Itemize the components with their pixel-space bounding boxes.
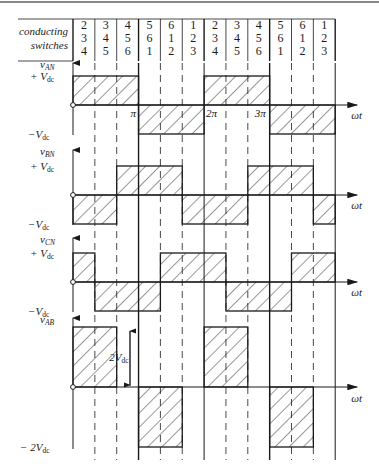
switch-number: 2: [299, 44, 305, 58]
waveform-vAB: ωt2Vdc: [71, 318, 363, 449]
switch-number: 3: [321, 44, 327, 58]
omega-t-label: ωt: [351, 286, 363, 298]
positive-pulse: [73, 253, 95, 282]
positive-pulse: [73, 76, 139, 105]
switch-number: 4: [234, 31, 240, 45]
three-pi-tick-label: 3π: [254, 107, 267, 119]
switch-number: 4: [125, 18, 131, 32]
negative-level-label: −Vdc: [28, 128, 50, 142]
negative-pulse: [226, 282, 292, 311]
switch-number: 4: [212, 44, 218, 58]
negative-pulse: [73, 195, 117, 224]
switch-number: 5: [234, 44, 240, 58]
conducting-switches-table: 234345456561612123234345456561612123: [73, 18, 335, 61]
switch-number: 6: [125, 44, 131, 58]
pi-tick-label: π: [131, 107, 137, 119]
switch-number: 3: [81, 31, 87, 45]
origin-marker: [71, 103, 76, 108]
origin-marker: [71, 385, 76, 390]
negative-pulse: [313, 195, 335, 224]
omega-t-label: ωt: [351, 392, 363, 404]
switch-number: 1: [321, 18, 327, 32]
switch-number: 1: [299, 31, 305, 45]
omega-t-label: ωt: [351, 109, 363, 121]
switch-number: 2: [321, 31, 327, 45]
negative-level-label: −Vdc: [28, 218, 50, 232]
waveform-vCN: ωt: [71, 238, 363, 312]
switch-number: 1: [278, 44, 284, 58]
switch-number: 2: [81, 18, 87, 32]
switch-number: 6: [168, 18, 174, 32]
switch-number: 6: [256, 44, 262, 58]
switch-number: 1: [146, 44, 152, 58]
positive-pulse: [117, 166, 183, 195]
switch-number: 6: [278, 31, 284, 45]
switch-number: 5: [103, 44, 109, 58]
switch-number: 5: [125, 31, 131, 45]
switch-number: 1: [190, 18, 196, 32]
origin-marker: [71, 193, 76, 198]
waveform-canvas: conducting switches 23434545656161212323…: [0, 0, 379, 467]
origin-marker: [71, 280, 76, 285]
negative-pulse: [270, 105, 336, 134]
positive-level-label: + Vdc: [30, 160, 55, 174]
switch-number: 4: [103, 31, 109, 45]
switch-number: 3: [234, 18, 240, 32]
switch-number: 4: [256, 18, 262, 32]
positive-pulse: [204, 327, 248, 387]
positive-level-label: + Vdc: [30, 70, 55, 84]
two-pi-tick-label: 2π: [206, 107, 218, 119]
waveform-name-label: vCN: [40, 233, 56, 247]
switch-number: 2: [190, 31, 196, 45]
amplitude-annotation: 2Vdc: [109, 351, 129, 365]
switch-number: 5: [146, 18, 152, 32]
negative-pulse: [139, 387, 183, 447]
header-label-line2: switches: [31, 39, 68, 51]
waveforms: ωtωtωtωt2Vdc: [71, 63, 363, 449]
switch-number: 5: [278, 18, 284, 32]
header-label-line1: conducting: [19, 25, 68, 37]
switch-number: 2: [212, 18, 218, 32]
switch-number: 5: [256, 31, 262, 45]
omega-t-label: ωt: [351, 199, 363, 211]
positive-pulse: [160, 253, 226, 282]
switch-number: 1: [168, 31, 174, 45]
switch-number: 4: [81, 44, 87, 58]
switch-number: 6: [146, 31, 152, 45]
negative-pulse: [270, 387, 314, 447]
switch-number: 3: [103, 18, 109, 32]
waveform-vAN: ωt: [71, 63, 363, 135]
positive-pulse: [204, 76, 270, 105]
positive-level-label: + Vdc: [30, 247, 55, 261]
negative-pulse: [95, 282, 161, 311]
negative-pulse: [139, 105, 205, 134]
negative-level-label: −Vdc: [28, 305, 50, 319]
negative-level-label: − 2Vdc: [20, 441, 50, 455]
switch-number: 6: [299, 18, 305, 32]
positive-pulse: [292, 253, 336, 282]
switch-number: 3: [212, 31, 218, 45]
switch-number: 3: [190, 44, 196, 58]
waveform-name-label: vBN: [40, 145, 55, 159]
switch-number: 2: [168, 44, 174, 58]
negative-pulse: [182, 195, 248, 224]
six-step-inverter-waveform-diagram: conducting switches 23434545656161212323…: [0, 0, 379, 467]
positive-pulse: [248, 166, 314, 195]
waveform-vBN: ωt: [71, 150, 363, 225]
